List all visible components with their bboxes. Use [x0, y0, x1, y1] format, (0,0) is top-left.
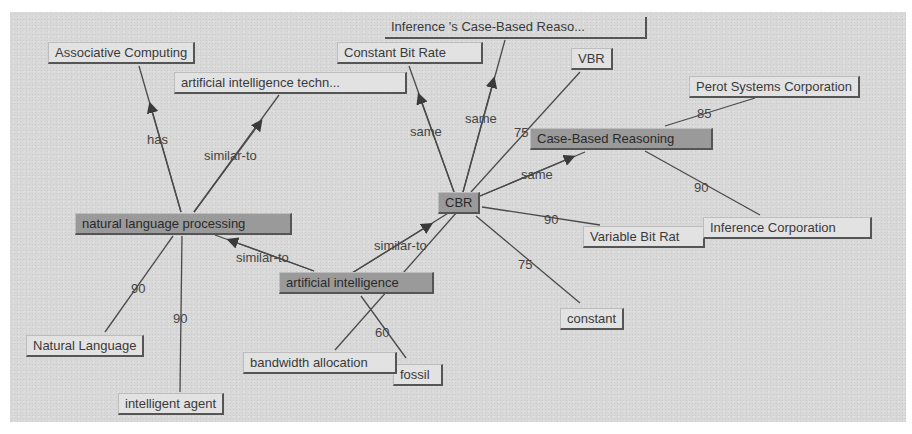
edge-label-90: 90: [694, 180, 708, 195]
node-fossil[interactable]: fossil: [393, 364, 443, 386]
node-associative-computing[interactable]: Associative Computing: [48, 42, 195, 64]
edge-label-90: 90: [173, 311, 187, 326]
edge-label-60: 60: [375, 325, 389, 340]
node-variable-bit-rate[interactable]: Variable Bit Rat: [583, 226, 705, 248]
node-constant-bit-rate[interactable]: Constant Bit Rate: [337, 42, 483, 64]
node-cbr[interactable]: CBR: [438, 192, 480, 214]
node-natural-language[interactable]: Natural Language: [26, 335, 144, 357]
edge-label-90: 90: [131, 281, 145, 296]
node-ai-techn[interactable]: artificial intelligence techn...: [174, 72, 407, 94]
node-case-based-reasoning[interactable]: Case-Based Reasoning: [530, 128, 713, 150]
edge-label-75: 75: [514, 125, 528, 140]
node-bandwidth-allocation[interactable]: bandwidth allocation: [243, 352, 397, 374]
node-perot[interactable]: Perot Systems Corporation: [689, 76, 860, 98]
node-intelligent-agent[interactable]: intelligent agent: [118, 393, 224, 415]
edge-label-has: has: [147, 132, 168, 147]
edge-cbr-vbitrate: [482, 207, 600, 225]
node-vbr[interactable]: VBR: [571, 48, 613, 70]
edge-label-similar-to: similar-to: [374, 238, 427, 253]
edge-label-75: 75: [518, 257, 532, 272]
edge-label-same: same: [410, 124, 442, 139]
edge-label-similar-to: similar-to: [236, 250, 289, 265]
edge-label-same: same: [521, 167, 553, 182]
edge-label-similar-to: similar-to: [204, 148, 257, 163]
node-nlp[interactable]: natural language processing: [75, 213, 292, 235]
node-constant[interactable]: constant: [560, 308, 624, 330]
node-inference-cbr[interactable]: Inference 's Case-Based Reaso...: [385, 17, 647, 39]
edge-label-90: 90: [544, 212, 558, 227]
node-ai[interactable]: artificial intelligence: [279, 272, 434, 294]
edge-label-85: 85: [697, 106, 711, 121]
node-inference-corp[interactable]: Inference Corporation: [703, 217, 872, 239]
edge-label-same: same: [465, 111, 497, 126]
